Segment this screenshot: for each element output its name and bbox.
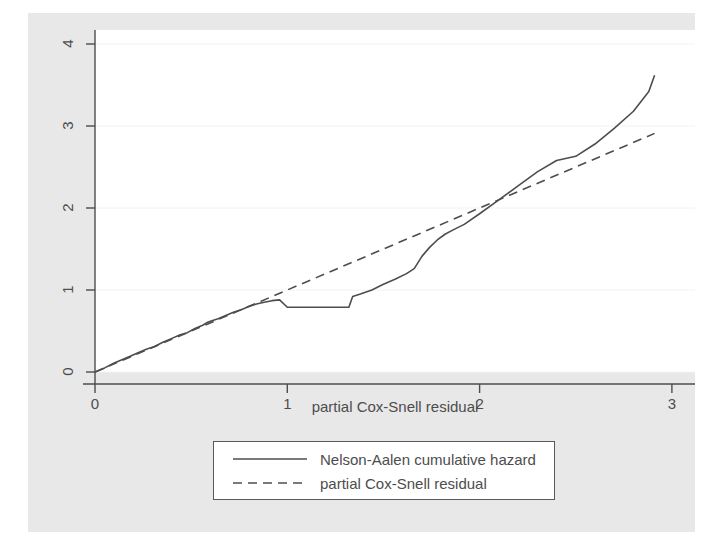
x-axis-title: partial Cox-Snell residual [95, 398, 695, 415]
data-series-layer [95, 75, 655, 372]
legend-label-nelson-aalen: Nelson-Aalen cumulative hazard [320, 451, 536, 468]
gridlines [95, 44, 695, 372]
series-line-1 [95, 133, 655, 372]
legend: Nelson-Aalen cumulative hazard partial C… [213, 441, 555, 500]
legend-entry-cox-snell: partial Cox-Snell residual [214, 471, 554, 495]
cox-snell-residual-plot: 01234 0123 partial Cox-Snell residual Ne… [0, 0, 728, 546]
axis-lines [83, 30, 695, 384]
legend-entry-nelson-aalen: Nelson-Aalen cumulative hazard [214, 447, 554, 471]
series-line-0 [95, 75, 655, 372]
legend-label-cox-snell: partial Cox-Snell residual [320, 475, 487, 492]
y-tick-label-4: 4 [60, 34, 75, 54]
y-tick-label-0: 0 [60, 362, 75, 382]
y-tick-label-3: 3 [60, 116, 75, 136]
legend-key-dashed-line [233, 476, 307, 490]
legend-key-solid-line [233, 452, 307, 466]
y-tick-label-2: 2 [60, 198, 75, 218]
axis-ticks [86, 44, 672, 393]
y-tick-label-1: 1 [60, 280, 75, 300]
